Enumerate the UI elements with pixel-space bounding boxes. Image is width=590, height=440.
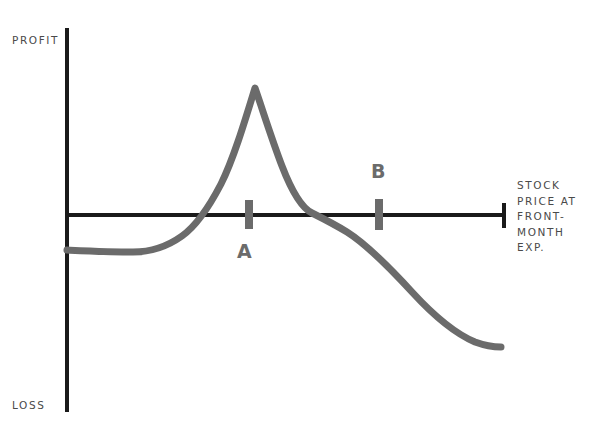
y-axis-profit-label: PROFIT [12, 33, 59, 48]
payoff-curve [67, 88, 501, 347]
payoff-chart-svg [0, 0, 590, 440]
x-axis-title: STOCK PRICE AT FRONT- MONTH EXP. [517, 178, 577, 256]
marker-label-b: B [371, 160, 385, 182]
y-axis-loss-label: LOSS [12, 398, 45, 413]
payoff-diagram: PROFIT LOSS STOCK PRICE AT FRONT- MONTH … [0, 0, 590, 440]
marker-label-a: A [237, 240, 252, 262]
